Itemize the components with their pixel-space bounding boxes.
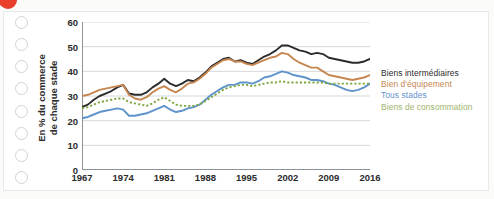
chart-svg xyxy=(82,22,370,170)
x-tick-label: 2002 xyxy=(277,172,298,183)
y-tick-label: 20 xyxy=(56,115,78,126)
data-series-group xyxy=(82,45,370,118)
line-chart-plot-area xyxy=(82,22,370,170)
chart-legend: Biens intermédiairesBien d'équipementTou… xyxy=(381,68,489,113)
legend-item: Biens intermédiaires xyxy=(381,68,489,79)
y-axis-tick-labels: 0102030405060 xyxy=(54,22,78,170)
y-tick-label: 10 xyxy=(56,140,78,151)
y-tick-label: 60 xyxy=(56,17,78,28)
binder-hole xyxy=(15,16,28,29)
x-tick-label: 1981 xyxy=(154,172,175,183)
series-line xyxy=(82,45,370,107)
x-tick-label: 1974 xyxy=(113,172,134,183)
legend-item: Bien d'équipement xyxy=(381,79,489,90)
gridlines xyxy=(82,22,370,170)
x-tick-label: 1995 xyxy=(236,172,257,183)
legend-item: Biens de consommation xyxy=(381,102,489,113)
binder-holes-column xyxy=(10,16,32,184)
binder-hole xyxy=(15,60,28,73)
y-tick-label: 30 xyxy=(56,91,78,102)
x-tick-label: 2016 xyxy=(359,172,380,183)
binder-hole xyxy=(15,82,28,95)
binder-hole xyxy=(15,127,28,140)
series-line xyxy=(82,71,370,118)
x-tick-label: 1988 xyxy=(195,172,216,183)
x-axis-tick-labels: 19671974198119881995200220092016 xyxy=(82,172,370,188)
binder-hole xyxy=(15,171,28,184)
x-tick-label: 2009 xyxy=(318,172,339,183)
binder-hole xyxy=(15,105,28,118)
binder-hole xyxy=(15,149,28,162)
y-tick-label: 40 xyxy=(56,66,78,77)
y-tick-label: 50 xyxy=(56,41,78,52)
legend-item: Tous stades xyxy=(381,90,489,101)
series-line xyxy=(82,53,370,100)
x-tick-label: 1967 xyxy=(71,172,92,183)
y-axis-title-line1: En % du commerce xyxy=(36,54,47,142)
binder-hole xyxy=(15,38,28,51)
